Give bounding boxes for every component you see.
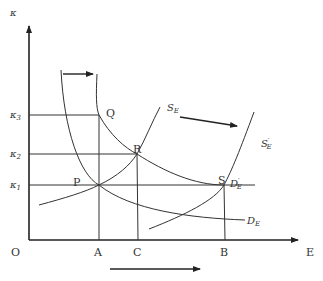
c-guide-line	[137, 154, 138, 240]
supply-demand-diagram: κ E O κ3 κ2 κ1 A C B Q P R S SE S′E D′E …	[0, 0, 323, 281]
x-tick-b: B	[220, 246, 228, 259]
point-p-label: P	[73, 176, 81, 189]
y-axis-label: κ	[9, 7, 17, 18]
x-tick-c: C	[133, 246, 141, 259]
y-tick-k3: κ3	[9, 109, 22, 122]
point-q-label: Q	[106, 107, 115, 120]
x-axis-label: E	[306, 246, 314, 259]
point-r-label: R	[133, 143, 142, 156]
curve-label-de-prime: D′E	[229, 177, 242, 191]
b-guide-line	[224, 185, 225, 240]
supply-shift-arrow	[180, 117, 237, 126]
curve-label-se-prime: S′E	[261, 137, 272, 151]
y-tick-k1: κ1	[9, 179, 21, 192]
point-s-label: S	[218, 174, 226, 187]
demand-curve-de	[61, 70, 245, 220]
x-tick-a: A	[93, 246, 103, 259]
diagram-canvas: κ E O κ3 κ2 κ1 A C B Q P R S SE S′E D′E …	[0, 0, 323, 281]
origin-label: O	[11, 246, 20, 259]
demand-curve-de-prime	[96, 74, 224, 185]
svg-text:κ3: κ3	[9, 109, 22, 122]
curve-label-se: SE	[167, 102, 179, 115]
svg-text:κ1: κ1	[9, 179, 21, 192]
y-tick-k2: κ2	[9, 148, 22, 161]
curve-label-de: DE	[246, 215, 260, 228]
svg-text:κ2: κ2	[9, 148, 22, 161]
